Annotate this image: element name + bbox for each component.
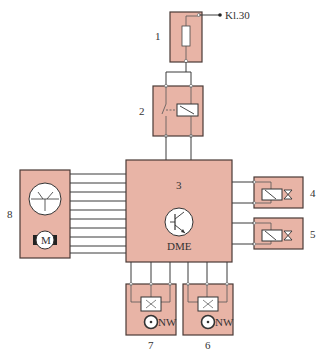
component-1-fuse — [170, 12, 222, 63]
component-5-solenoid-valve — [253, 218, 304, 249]
solenoid-coil-icon — [262, 230, 282, 241]
component-2-relay — [153, 84, 203, 137]
component-2-label: 2 — [139, 105, 145, 117]
sensor-7-nw-label: NW — [158, 316, 177, 328]
dme-label: DME — [167, 240, 192, 252]
terminal-kl30-label: Kl.30 — [225, 9, 250, 21]
sensor-6-nw-label: NW — [215, 316, 234, 328]
circuit-diagram: Kl.30 1 2 3 DME — [0, 0, 320, 354]
component-7-label: 7 — [148, 339, 154, 351]
transistor-icon — [165, 208, 193, 236]
motor-label: M — [41, 234, 51, 246]
component-6-label: 6 — [205, 339, 211, 351]
bus-wires-8-to-3 — [70, 174, 126, 253]
component-4-label: 4 — [310, 187, 316, 199]
component-8-label: 8 — [7, 208, 13, 220]
component-3-label: 3 — [176, 179, 182, 191]
fuse-icon — [182, 26, 190, 46]
component-4-solenoid-valve — [253, 177, 304, 208]
component-1-label: 1 — [155, 30, 161, 42]
terminal-dot — [218, 13, 222, 17]
component-5-label: 5 — [310, 228, 316, 240]
solenoid-coil-icon — [262, 189, 282, 200]
